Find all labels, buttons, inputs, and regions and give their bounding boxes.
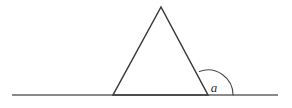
triangle-shape — [113, 7, 208, 95]
diagram-canvas: a — [0, 0, 292, 108]
angle-label-a: a — [211, 80, 218, 95]
geometry-figure: a — [0, 0, 292, 108]
